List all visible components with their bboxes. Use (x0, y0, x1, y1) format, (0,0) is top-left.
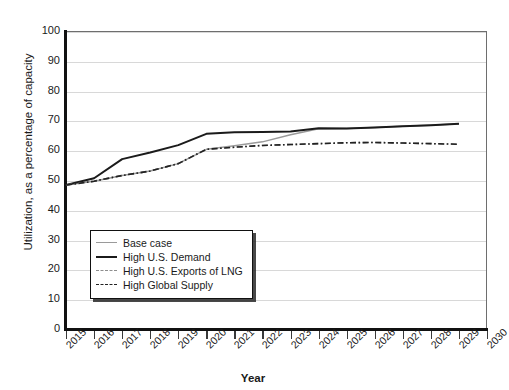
gridline (66, 300, 486, 301)
legend-swatch-icon (96, 238, 117, 248)
legend-item-label: Base case (123, 238, 172, 249)
legend-item[interactable]: High U.S. Exports of LNG (96, 264, 243, 278)
legend-item-label: High U.S. Demand (123, 252, 211, 263)
gridline (66, 62, 486, 63)
y-axis-line (64, 30, 67, 330)
legend-item[interactable]: High Global Supply (96, 278, 243, 292)
gridline (66, 211, 486, 212)
legend-swatch-icon (96, 280, 117, 290)
gridline (66, 151, 486, 152)
y-axis-tick-label: 10 (34, 293, 60, 304)
cropped-title-sliver (0, 0, 506, 7)
y-axis-tick-label: 70 (34, 114, 60, 125)
legend-item-label: High U.S. Exports of LNG (123, 266, 243, 277)
gridline (66, 92, 486, 93)
y-axis-tick-label: 80 (34, 85, 60, 96)
gridline (66, 181, 486, 182)
y-axis-tick-labels: 0102030405060708090100 (30, 0, 60, 390)
gridline (66, 121, 486, 122)
x-axis-title: Year (0, 372, 506, 384)
legend-item-label: High Global Supply (123, 280, 213, 291)
legend-swatch-icon (96, 266, 117, 276)
legend-item[interactable]: Base case (96, 236, 243, 250)
y-axis-tick-label: 20 (34, 263, 60, 274)
legend-item[interactable]: High U.S. Demand (96, 250, 243, 264)
y-axis-tick-label: 90 (34, 55, 60, 66)
y-axis-tick-label: 0 (34, 323, 60, 334)
y-axis-tick-label: 30 (34, 234, 60, 245)
y-axis-tick-label: 60 (34, 144, 60, 155)
y-axis-tick-label: 50 (34, 174, 60, 185)
y-axis-tick-label: 100 (34, 25, 60, 36)
legend-swatch-icon (96, 252, 117, 262)
x-axis-tick-label: 2030 (485, 326, 509, 350)
chart-legend: Base caseHigh U.S. DemandHigh U.S. Expor… (90, 230, 253, 299)
y-axis-tick-label: 40 (34, 204, 60, 215)
gridline (66, 32, 486, 33)
